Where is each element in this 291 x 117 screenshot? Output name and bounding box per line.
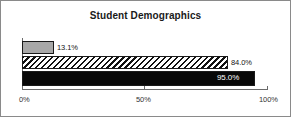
plot-area: 13.1% 84.0% 95.0% <box>22 39 267 89</box>
x-axis-tick-2 <box>267 86 268 89</box>
bar-value-label-2: 84.0% <box>231 58 252 67</box>
chart-title: Student Demographics <box>1 10 290 21</box>
chart-container: Student Demographics 13.1% 84.0% 95.0% 0… <box>0 0 291 117</box>
bar-series-1 <box>22 41 54 54</box>
x-axis-tick-label-0: 0% <box>19 95 30 104</box>
x-axis-line <box>22 89 268 90</box>
bar-value-label-3: 95.0% <box>217 73 239 82</box>
bar-series-2 <box>22 56 228 69</box>
bar-value-label-1: 13.1% <box>57 43 78 52</box>
x-axis-tick-label-100: 100% <box>259 95 278 104</box>
x-axis-tick-label-50: 50% <box>136 95 151 104</box>
